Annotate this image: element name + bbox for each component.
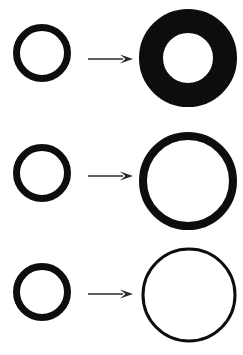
figure-canvas (0, 0, 243, 355)
ring-transformation-diagram (0, 0, 243, 355)
figure-background (0, 0, 243, 355)
